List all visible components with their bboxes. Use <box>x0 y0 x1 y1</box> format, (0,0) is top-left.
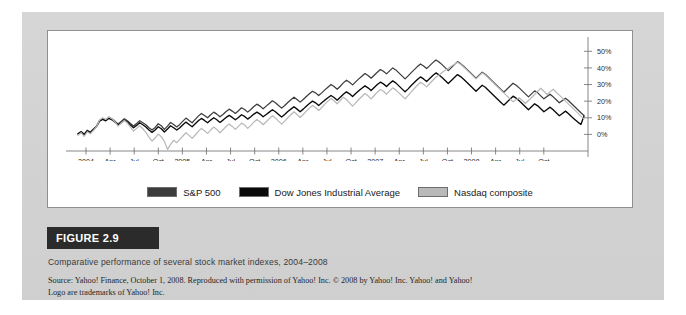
legend-item: Dow Jones Industrial Average <box>239 187 401 198</box>
x-axis-tick-label: 2008 <box>464 157 480 162</box>
y-axis-tick-label: 0% <box>597 130 608 139</box>
x-axis-tick-label: Jul <box>419 157 429 162</box>
x-axis-tick-label: Apr <box>201 157 213 162</box>
chart-panel: 0%10%20%30%40%50%2004AprJulOct2005AprJul… <box>47 30 633 208</box>
x-axis-tick-label: Jul <box>322 157 332 162</box>
figure-number-label: FIGURE 2.9 <box>47 232 119 244</box>
figure-source-line-2: Logo are trademarks of Yahoo! Inc. <box>48 287 644 299</box>
legend-color-swatch <box>239 187 269 197</box>
x-axis-tick-label: Apr <box>394 157 406 162</box>
series-line-nasdaq-composite <box>78 62 584 149</box>
x-axis-tick-label: 2004 <box>78 157 94 162</box>
y-axis-tick-label: 50% <box>597 47 612 56</box>
y-axis-tick-label: 10% <box>597 113 612 122</box>
legend-item: S&P 500 <box>147 187 220 198</box>
legend-color-swatch <box>418 187 448 197</box>
y-axis-tick-label: 20% <box>597 97 612 106</box>
x-axis-tick-label: Apr <box>490 157 502 162</box>
x-axis-tick-label: 2006 <box>271 157 287 162</box>
legend-item-label: Dow Jones Industrial Average <box>275 187 401 198</box>
x-axis-tick-label: Oct <box>442 157 453 162</box>
x-axis-tick-label: Oct <box>538 157 549 162</box>
legend-item: Nasdaq composite <box>418 187 533 198</box>
series-line-dow-jones-industrial-average <box>78 73 584 135</box>
x-axis-tick-label: 2007 <box>367 157 383 162</box>
figure-card: 0%10%20%30%40%50%2004AprJulOct2005AprJul… <box>22 12 664 300</box>
x-axis-tick-label: Jul <box>226 157 236 162</box>
x-axis-tick-label: Apr <box>297 157 309 162</box>
y-axis-tick-label: 30% <box>597 80 612 89</box>
figure-source-line-1: Source: Yahoo! Finance, October 1, 2008.… <box>48 275 644 287</box>
legend-color-swatch <box>147 187 177 197</box>
x-axis-tick-label: Oct <box>249 157 260 162</box>
legend-item-label: Nasdaq composite <box>454 187 533 198</box>
legend-item-label: S&P 500 <box>183 187 220 198</box>
figure-caption: Comparative performance of several stock… <box>48 257 628 267</box>
figure-source: Source: Yahoo! Finance, October 1, 2008.… <box>48 275 644 298</box>
x-axis-tick-label: Apr <box>105 157 117 162</box>
stock-index-line-chart: 0%10%20%30%40%50%2004AprJulOct2005AprJul… <box>48 31 632 161</box>
x-axis-tick-label: Oct <box>345 157 356 162</box>
y-axis-tick-label: 40% <box>597 64 612 73</box>
x-axis-tick-label: Jul <box>130 157 140 162</box>
x-axis-tick-label: Oct <box>153 157 164 162</box>
figure-number-tag: FIGURE 2.9 <box>47 227 159 249</box>
x-axis-tick-label: Jul <box>515 157 525 162</box>
chart-legend: S&P 500Dow Jones Industrial AverageNasda… <box>48 179 632 205</box>
x-axis-tick-label: 2005 <box>174 157 190 162</box>
